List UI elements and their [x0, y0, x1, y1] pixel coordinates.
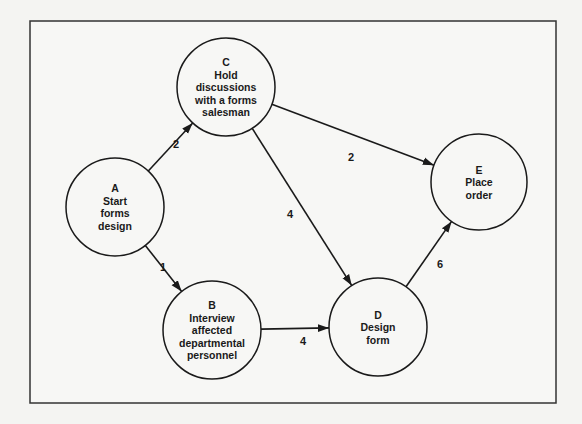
- node-description-line: form: [366, 334, 389, 346]
- node-c: CHolddiscussionswith a formssalesman: [177, 38, 275, 136]
- node-description-line: order: [466, 189, 493, 201]
- node-description-line: Start: [103, 195, 127, 207]
- node-description-line: departmental: [179, 337, 245, 349]
- edge-weight-label: 2: [348, 151, 354, 163]
- edge-weight-label: 6: [437, 258, 443, 270]
- node-id-label: D: [374, 309, 382, 321]
- node-id-label: A: [111, 182, 119, 194]
- node-e: EPlaceorder: [431, 134, 527, 230]
- edge-weight-label: 4: [300, 335, 307, 347]
- node-id-label: C: [222, 56, 230, 68]
- node-description-line: Interview: [189, 312, 235, 324]
- node-description-line: forms: [100, 207, 129, 219]
- node-d: DDesignform: [329, 278, 427, 376]
- node-description-line: personnel: [187, 349, 237, 361]
- node-description-line: design: [98, 220, 132, 232]
- node-b: BInterviewaffecteddepartmentalpersonnel: [163, 281, 261, 379]
- node-description-line: Place: [465, 176, 493, 188]
- node-id-label: B: [208, 299, 216, 311]
- edge-weight-label: 4: [287, 208, 294, 220]
- node-description-line: salesman: [202, 106, 250, 118]
- node-id-label: E: [475, 164, 482, 176]
- node-description-line: Hold: [214, 69, 237, 81]
- diagram-canvas: 212446 AStartformsdesignBInterviewaffect…: [0, 0, 582, 424]
- node-description-line: affected: [192, 324, 232, 336]
- edge-weight-label: 1: [160, 261, 166, 273]
- node-description-line: Design: [360, 321, 395, 333]
- node-description-line: with a forms: [194, 94, 257, 106]
- edge-weight-label: 2: [173, 138, 179, 150]
- node-description-line: discussions: [196, 81, 257, 93]
- node-a: AStartformsdesign: [66, 158, 164, 256]
